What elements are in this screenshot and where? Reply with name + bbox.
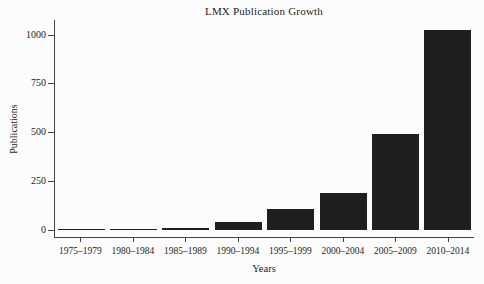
y-tick (48, 181, 54, 182)
bar-slot (107, 25, 159, 230)
y-tick-label: 0 (0, 224, 46, 236)
lmx-publication-growth-chart: LMX Publication Growth Publications 0250… (0, 0, 484, 284)
x-tick-label: 1995–1999 (264, 245, 317, 257)
x-tick-label: 1980–1984 (107, 245, 160, 257)
y-tick (48, 35, 54, 36)
y-tick-label: 750 (0, 77, 46, 89)
x-tick (133, 238, 134, 242)
x-axis-labels: 1975–19791980–19841985–19891990–19941995… (54, 245, 474, 257)
x-tick (290, 238, 291, 242)
bar-slot (160, 25, 212, 230)
bar-row (55, 25, 474, 230)
x-axis-title: Years (54, 263, 474, 274)
y-tick (48, 230, 54, 231)
chart-title: LMX Publication Growth (54, 5, 474, 17)
plot-area (54, 20, 474, 238)
bar-slot (369, 25, 421, 230)
x-tick-label: 2000–2004 (317, 245, 370, 257)
y-tick-label: 1000 (0, 29, 46, 41)
x-tick (395, 238, 396, 242)
x-tick (185, 238, 186, 242)
bar-2000–2004 (320, 193, 367, 230)
x-tick-label: 1985–1989 (159, 245, 212, 257)
x-tick (80, 238, 81, 242)
bar-1980–1984 (110, 229, 157, 230)
y-tick (48, 132, 54, 133)
bar-2005–2009 (372, 134, 419, 230)
bar-1985–1989 (162, 228, 209, 230)
bar-1990–1994 (215, 222, 262, 230)
bar-1995–1999 (267, 209, 314, 230)
y-tick-label: 500 (0, 126, 46, 138)
x-tick-label: 1990–1994 (212, 245, 265, 257)
bar-slot (422, 25, 474, 230)
x-tick-label: 2005–2009 (369, 245, 422, 257)
bar-slot (265, 25, 317, 230)
y-tick (48, 83, 54, 84)
bar-2010–2014 (424, 30, 471, 230)
bar-slot (55, 25, 107, 230)
x-tick-label: 1975–1979 (54, 245, 107, 257)
bar-slot (317, 25, 369, 230)
x-tick (448, 238, 449, 242)
bar-slot (212, 25, 264, 230)
x-tick-label: 2010–2014 (422, 245, 475, 257)
x-tick (238, 238, 239, 242)
x-tick (343, 238, 344, 242)
bar-1975–1979 (58, 229, 105, 230)
y-tick-label: 250 (0, 175, 46, 187)
